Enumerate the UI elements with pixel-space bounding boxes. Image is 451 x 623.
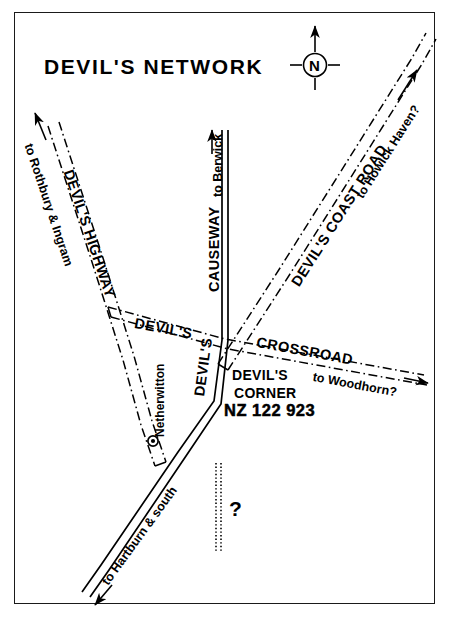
netherwitton-marker (148, 436, 158, 446)
road-devils-coast (218, 33, 436, 370)
road-unknown-dotted (216, 463, 221, 552)
road-label-causeway: CAUSEWAY (207, 206, 222, 292)
compass-north-letter: N (309, 58, 320, 73)
highway-direction-arrow (35, 113, 46, 140)
page-title: DEVIL'S NETWORK (44, 56, 263, 77)
unknown-route-question-mark: ? (229, 498, 242, 519)
junction-name-line1: DEVIL'S (232, 368, 288, 382)
map-roads-layer (0, 0, 451, 623)
junction-name-line2: CORNER (234, 386, 296, 400)
devils-network-map: DEVIL'S NETWORK N DEVIL'S HIGHWAY to Rot… (0, 0, 451, 623)
destination-label-berwick: to Berwick (212, 134, 225, 197)
grid-reference: NZ 122 923 (224, 402, 315, 419)
place-label-netherwitton: Netherwitton (154, 364, 166, 437)
south-direction-arrow (95, 585, 112, 605)
